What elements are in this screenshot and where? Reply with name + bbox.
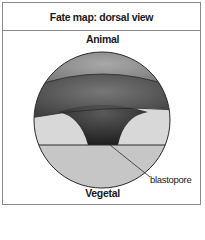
blastopore-label: blastopore — [150, 174, 191, 185]
animal-pole-label: Animal — [0, 33, 205, 45]
vegetal-pole-label: Vegetal — [0, 187, 205, 199]
